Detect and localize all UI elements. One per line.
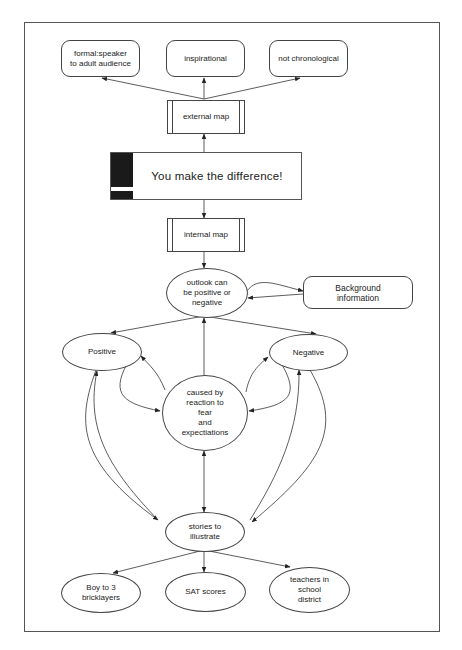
edge-stories-to-boy <box>113 550 204 573</box>
edge-outlook-to-positive <box>111 316 204 333</box>
node-outlook: outlook can be positive or negative <box>166 268 248 318</box>
edge-positive-to-caused <box>120 364 160 411</box>
edge-outlook-to-negative <box>204 316 316 334</box>
edge-negative-to-stories <box>252 370 326 522</box>
node-positive: Positive <box>62 333 142 371</box>
node-negative: Negative <box>269 334 348 371</box>
edge-outlook-to-background <box>247 282 303 291</box>
edge-stories-to-negative <box>250 370 299 520</box>
node-inspirational: inspirational <box>166 40 245 77</box>
edge-caused-to-negative <box>246 357 268 392</box>
node-background: Background information <box>303 276 413 309</box>
node-stories: stories to illustrate <box>165 512 245 552</box>
edge-caused-to-positive <box>141 356 165 390</box>
node-external-map: external map <box>167 100 245 134</box>
node-not-chronological: not chronological <box>269 40 348 77</box>
node-boy: Boy to 3 bricklayers <box>61 573 141 613</box>
edge-stories-to-positive <box>94 371 158 520</box>
node-caused-by: caused by reaction to fear and expectiat… <box>162 375 248 451</box>
node-internal-map: internal map <box>167 218 245 252</box>
edge-external-to-formal <box>102 78 204 99</box>
edges-layer <box>0 0 462 650</box>
node-main: You make the difference! <box>110 152 302 200</box>
edge-background-to-outlook <box>248 294 303 298</box>
node-sat: SAT scores <box>165 572 246 612</box>
node-teachers: teachers in school district <box>269 567 350 613</box>
edge-external-to-notchron <box>204 78 300 99</box>
main-accent-bar-small <box>111 191 133 199</box>
main-title: You make the difference! <box>133 153 301 199</box>
node-formal: formal:speaker to adult audience <box>61 40 140 77</box>
edge-stories-to-teachers <box>204 550 290 567</box>
main-accent-bar <box>111 153 133 187</box>
